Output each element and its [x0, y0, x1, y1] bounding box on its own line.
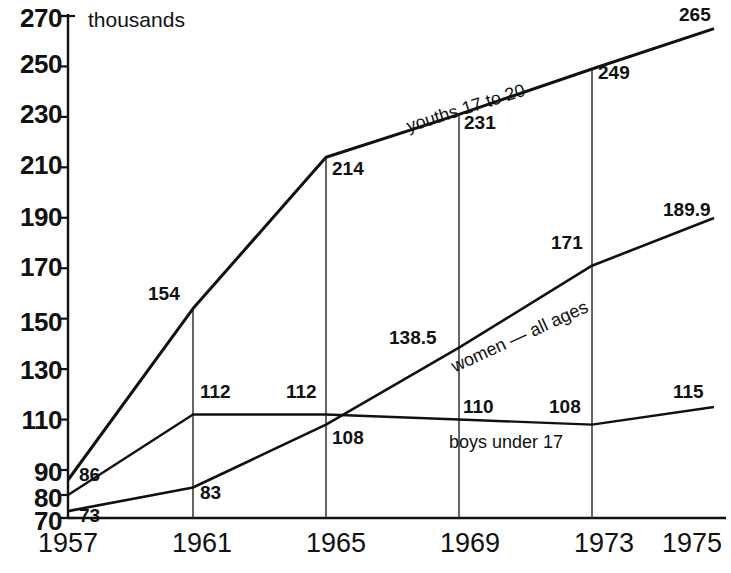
- y-axis-unit-label: thousands: [88, 8, 185, 32]
- data-label-youths-1975: 265: [679, 4, 711, 26]
- series-line-2: [68, 407, 714, 495]
- data-label-youths-1961: 154: [148, 283, 180, 305]
- data-label-youths-1957: 86: [79, 464, 100, 486]
- series-label-boys: boys under 17: [449, 432, 563, 453]
- data-label-women-1961: 83: [200, 482, 221, 504]
- data-label-boys-1965: 112: [286, 381, 317, 403]
- x-tick-label-1965: 1965: [306, 528, 366, 559]
- x-tick-label-1961: 1961: [172, 528, 232, 559]
- data-label-boys-1969: 110: [463, 396, 494, 418]
- data-label-women-1969: 138.5: [389, 327, 437, 349]
- x-tick-label-1975: 1975: [662, 528, 722, 559]
- x-tick-label-1973: 1973: [574, 528, 634, 559]
- y-tick-label-110: 110: [0, 405, 62, 436]
- y-tick-label-270: 270: [0, 3, 62, 34]
- y-tick-label-230: 230: [0, 99, 62, 130]
- chart-figure: 270 250 230 210 190 170 150 130 110 90 8…: [0, 0, 731, 573]
- x-tick-label-1957: 1957: [38, 528, 98, 559]
- data-label-boys-1975: 115: [673, 381, 704, 403]
- y-tick-label-210: 210: [0, 150, 62, 181]
- y-tick-label-170: 170: [0, 252, 62, 283]
- x-tick-label-1969: 1969: [440, 528, 500, 559]
- data-label-youths-1973: 249: [598, 62, 630, 84]
- data-label-boys-1961: 112: [200, 381, 231, 403]
- series-line-0: [68, 29, 714, 480]
- y-tick-label-250: 250: [0, 49, 62, 80]
- chart-plot-area: [0, 0, 731, 573]
- data-label-women-1975: 189.9: [663, 199, 711, 221]
- data-label-women-1957: 73: [79, 505, 100, 527]
- y-tick-label-190: 190: [0, 202, 62, 233]
- data-label-youths-1965: 214: [332, 158, 364, 180]
- data-label-women-1973: 171: [551, 232, 583, 254]
- y-tick-label-130: 130: [0, 355, 62, 386]
- data-label-women-1965: 108: [332, 427, 364, 449]
- y-tick-label-150: 150: [0, 307, 62, 338]
- data-label-boys-1973: 108: [549, 396, 581, 418]
- series-line-1: [68, 218, 714, 511]
